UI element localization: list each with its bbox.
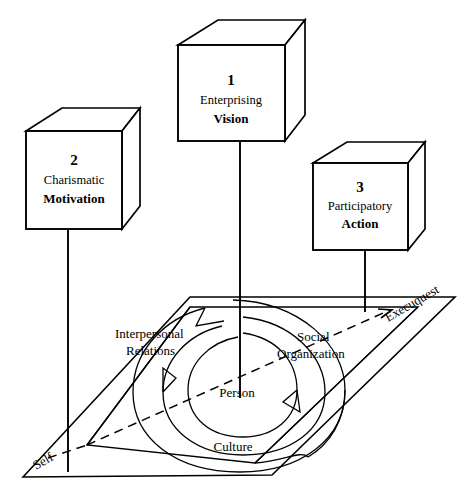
cube-3-top (313, 142, 425, 163)
cube-3-line2: Action (342, 216, 380, 231)
label-interpersonal-line1: Interpersonal (115, 326, 184, 341)
label-person: Person (219, 385, 255, 400)
cube-3-number: 3 (356, 179, 364, 195)
label-social-line2: Organization (277, 346, 345, 361)
self-execuquest-axis (48, 309, 392, 458)
base-labels: Interpersonal Relations Social Organizat… (30, 281, 442, 472)
execuquest-diagram: 1 Enterprising Vision 2 Charismatic Moti… (0, 0, 463, 503)
label-interpersonal-line2: Relations (126, 343, 175, 358)
cube-1[interactable]: 1 Enterprising Vision (178, 20, 305, 141)
label-social-line1: Social (297, 329, 330, 344)
label-culture: Culture (214, 439, 253, 454)
cube-2[interactable]: 2 Charismatic Motivation (26, 108, 140, 229)
cube-1-line2: Vision (214, 111, 250, 126)
cube-2-number: 2 (70, 152, 78, 168)
cube-2-top (26, 108, 140, 131)
cube-1-number: 1 (227, 72, 235, 88)
label-self: Self (30, 449, 56, 473)
cube-1-line1: Enterprising (200, 93, 263, 107)
cube-3[interactable]: 3 Participatory Action (313, 142, 425, 250)
cube-2-line2: Motivation (43, 191, 105, 206)
diagram-canvas: 1 Enterprising Vision 2 Charismatic Moti… (0, 0, 463, 503)
cube-1-top (178, 20, 305, 45)
cube-3-line1: Participatory (328, 199, 393, 213)
cube-2-line1: Charismatic (44, 173, 105, 187)
